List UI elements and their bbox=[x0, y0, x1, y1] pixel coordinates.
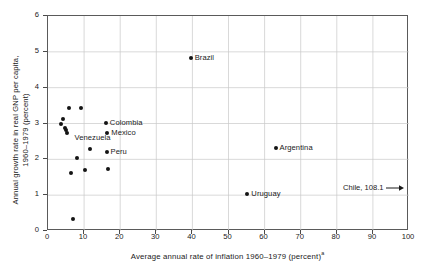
data-point bbox=[106, 167, 110, 171]
data-point bbox=[105, 150, 109, 154]
data-point bbox=[104, 121, 108, 125]
plot-area bbox=[47, 15, 408, 230]
data-point-label: Mexico bbox=[111, 128, 136, 137]
x-axis-tick-mark bbox=[264, 230, 265, 234]
y-axis-tick-label: 6 bbox=[0, 10, 46, 20]
y-axis-tick-label: 5 bbox=[0, 46, 46, 56]
x-axis-tick-mark bbox=[191, 230, 192, 234]
y-axis-tick-mark bbox=[43, 158, 47, 159]
x-axis-tick-mark bbox=[300, 230, 301, 234]
y-axis-tick-mark bbox=[43, 15, 47, 16]
data-point-label: Argentina bbox=[280, 143, 313, 152]
data-point bbox=[274, 146, 278, 150]
x-axis-tick-mark bbox=[336, 230, 337, 234]
x-axis-label: Average annual rate of inflation 1960–19… bbox=[47, 250, 408, 261]
data-point-label: Uruguay bbox=[251, 189, 280, 198]
x-axis-label-footnote-marker: a bbox=[321, 250, 324, 256]
y-axis-label-line1: Annual growth rate in real GNP per capit… bbox=[11, 56, 22, 205]
x-axis-tick-mark bbox=[228, 230, 229, 234]
arrow-right-icon bbox=[386, 184, 404, 192]
y-axis-tick-mark bbox=[43, 230, 47, 231]
data-point bbox=[88, 147, 92, 151]
y-axis-tick-label: 4 bbox=[0, 82, 46, 92]
x-axis-tick-label: 0 bbox=[27, 232, 67, 242]
x-axis-tick-mark bbox=[155, 230, 156, 234]
offscale-annotation-label: Chile, 108.1 bbox=[343, 183, 384, 192]
scatter-chart-figure: Annual growth rate in real GNP per capit… bbox=[0, 0, 428, 275]
x-axis-tick-mark bbox=[119, 230, 120, 234]
x-axis-tick-mark bbox=[83, 230, 84, 234]
x-axis-tick-mark bbox=[372, 230, 373, 234]
data-point bbox=[59, 122, 63, 126]
data-point bbox=[69, 171, 73, 175]
data-point-label: Brazil bbox=[195, 53, 214, 62]
y-axis-tick-mark bbox=[43, 87, 47, 88]
data-point-label: Venezuela bbox=[74, 133, 110, 142]
y-axis-tick-label: 2 bbox=[0, 153, 46, 163]
data-point bbox=[189, 56, 193, 60]
x-axis-label-text: Average annual rate of inflation 1960–19… bbox=[131, 252, 321, 261]
y-axis-tick-mark bbox=[43, 123, 47, 124]
y-axis-tick-mark bbox=[43, 194, 47, 195]
x-axis-tick-label: 100 bbox=[388, 232, 428, 242]
y-axis-tick-label: 1 bbox=[0, 189, 46, 199]
grid-lines bbox=[48, 16, 409, 231]
data-point bbox=[61, 117, 65, 121]
y-axis-tick-label: 3 bbox=[0, 118, 46, 128]
y-axis-tick-mark bbox=[43, 51, 47, 52]
offscale-annotation-chile: Chile, 108.1 bbox=[343, 183, 404, 192]
data-point bbox=[65, 131, 69, 135]
data-point-label: Peru bbox=[111, 147, 127, 156]
data-point-label: Colombia bbox=[110, 118, 143, 127]
